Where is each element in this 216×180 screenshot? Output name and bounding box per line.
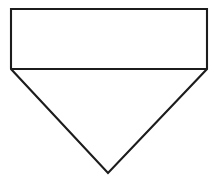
pentagon-outline-shape: [11, 9, 207, 173]
figure-canvas: Home plate pentagon outline A rectangle …: [0, 0, 216, 180]
shape-diagram: [0, 0, 216, 180]
